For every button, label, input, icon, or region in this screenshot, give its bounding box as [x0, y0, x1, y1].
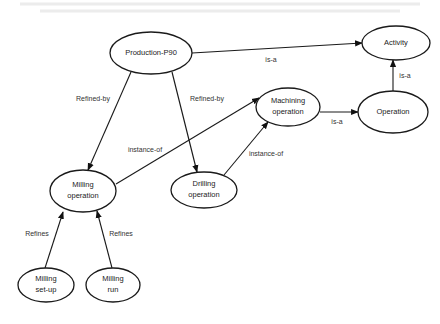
- node-milling-set-up: Millingset-up: [18, 268, 74, 302]
- node-machining-operation: Machiningoperation: [256, 88, 320, 126]
- node-label: Milling: [72, 180, 93, 189]
- edge-label-refines: Refines: [109, 230, 133, 237]
- node-milling-operation: Millingoperation: [50, 170, 116, 212]
- edges-layer: [45, 43, 393, 268]
- concept-diagram: Production-P90ActivityOperationMachining…: [0, 0, 440, 324]
- node-milling-run: Millingrun: [86, 268, 140, 302]
- node-activity: Activity: [362, 26, 430, 60]
- node-label: Activity: [384, 38, 408, 47]
- edge-label-instance-of: instance-of: [249, 150, 283, 157]
- edge-label-is-a: is-a: [399, 72, 410, 79]
- edge-drilling-operation-to-machining-operation: [224, 122, 268, 175]
- node-label: Machining: [271, 96, 305, 105]
- edge-label-is-a: is-a: [331, 118, 342, 125]
- edge-label-refines: Refines: [25, 230, 49, 237]
- scan-bleed-through: [20, 4, 420, 11]
- edge-milling-set-up-to-milling-operation: [45, 212, 63, 268]
- node-label: run: [108, 285, 119, 294]
- nodes-layer: Production-P90ActivityOperationMachining…: [18, 26, 430, 302]
- node-label: set-up: [36, 285, 57, 294]
- edge-label-is-a: is-a: [265, 56, 276, 63]
- node-label: Milling: [35, 274, 56, 283]
- edge-milling-run-to-milling-operation: [97, 211, 112, 268]
- node-operation: Operation: [358, 91, 428, 133]
- edge-label-refined-by: Refined-by: [190, 95, 224, 103]
- edge-production-p90-to-drilling-operation: [172, 72, 197, 172]
- node-drilling-operation: Drillingoperation: [171, 172, 237, 208]
- node-label: Drilling: [193, 179, 216, 188]
- node-label: Operation: [377, 107, 410, 116]
- node-label: operation: [188, 190, 219, 199]
- node-label: Milling: [102, 274, 123, 283]
- edge-label-instance-of: instance-of: [128, 146, 162, 153]
- node-label: Production-P90: [125, 48, 177, 57]
- edge-label-refined-by: Refined-by: [76, 95, 110, 103]
- edge-milling-operation-to-machining-operation: [116, 98, 259, 184]
- edge-production-p90-to-milling-operation: [88, 72, 131, 170]
- node-label: operation: [272, 107, 303, 116]
- edge-production-p90-to-activity: [192, 43, 362, 53]
- node-production-p90: Production-P90: [110, 32, 192, 74]
- node-label: operation: [67, 191, 98, 200]
